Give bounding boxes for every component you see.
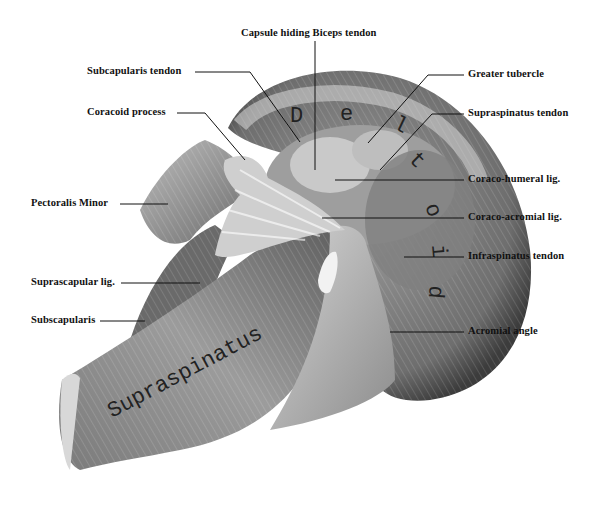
label-coraco-acromial-lig: Coraco-acromial lig.	[468, 211, 562, 222]
deltoid-letter-d: D	[290, 104, 303, 129]
deltoid-letter-d2: d	[422, 284, 448, 299]
label-suprascapular-lig: Suprascapular lig.	[31, 276, 115, 287]
label-coracoid-process: Coracoid process	[87, 106, 166, 117]
deltoid-letter-e: e	[340, 102, 353, 127]
label-subscapularis: Subscapularis	[31, 314, 95, 325]
label-greater-tubercle: Greater tubercle	[468, 68, 544, 79]
label-subscapularis-tendon: Subcapularis tendon	[87, 65, 181, 76]
deltoid-letter-i: i	[425, 243, 451, 258]
anatomy-figure: D e l t o i d Supraspinatus	[0, 0, 609, 512]
label-acromial-angle: Acromial angle	[468, 325, 538, 336]
label-coraco-humeral-lig: Coraco-humeral lig.	[468, 173, 560, 184]
label-pectoralis-minor: Pectoralis Minor	[31, 197, 108, 208]
label-capsule-biceps: Capsule hiding Biceps tendon	[241, 27, 377, 38]
label-infraspinatus-tendon: Infraspinatus tendon	[468, 250, 564, 261]
label-supraspinatus-tendon: Supraspinatus tendon	[468, 107, 568, 118]
